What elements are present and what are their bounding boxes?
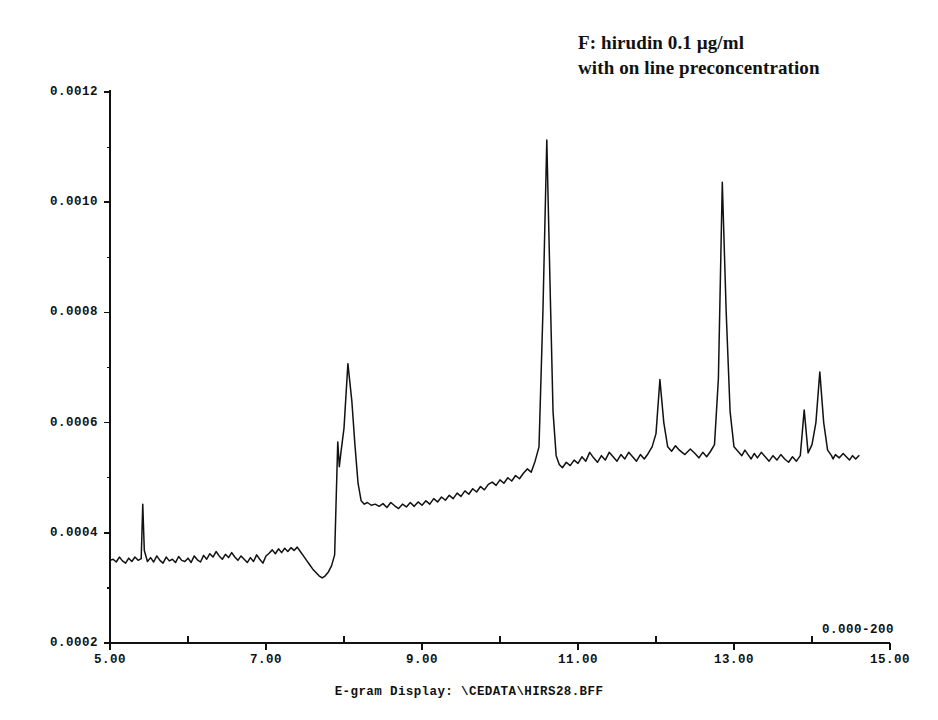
plot-caption: E-gram Display: \CEDATA\HIRS28.BFF xyxy=(0,685,938,699)
y-tick-label-1: 0.0010 xyxy=(28,195,98,209)
signal-trace xyxy=(110,140,859,578)
x-tick-label-0: 5.00 xyxy=(94,653,126,667)
trace-group xyxy=(110,140,859,643)
y-tick-label-4: 0.0004 xyxy=(28,526,98,540)
range-note: 0.000-200 xyxy=(822,623,894,637)
x-tick-label-1: 7.00 xyxy=(250,653,282,667)
x-tick-label-3: 11.00 xyxy=(558,653,598,667)
x-tick-label-5: 15.00 xyxy=(870,653,910,667)
y-tick-label-0: 0.0012 xyxy=(28,85,98,99)
y-tick-label-2: 0.0008 xyxy=(28,305,98,319)
electropherogram-plot xyxy=(0,0,938,720)
y-tick-label-3: 0.0006 xyxy=(28,416,98,430)
y-tick-label-5: 0.0002 xyxy=(28,636,98,650)
axis-group xyxy=(104,90,890,650)
x-tick-label-2: 9.00 xyxy=(406,653,438,667)
x-tick-label-4: 13.00 xyxy=(714,653,754,667)
chart-root: F: hirudin 0.1 µg/ml with on line precon… xyxy=(0,0,938,720)
